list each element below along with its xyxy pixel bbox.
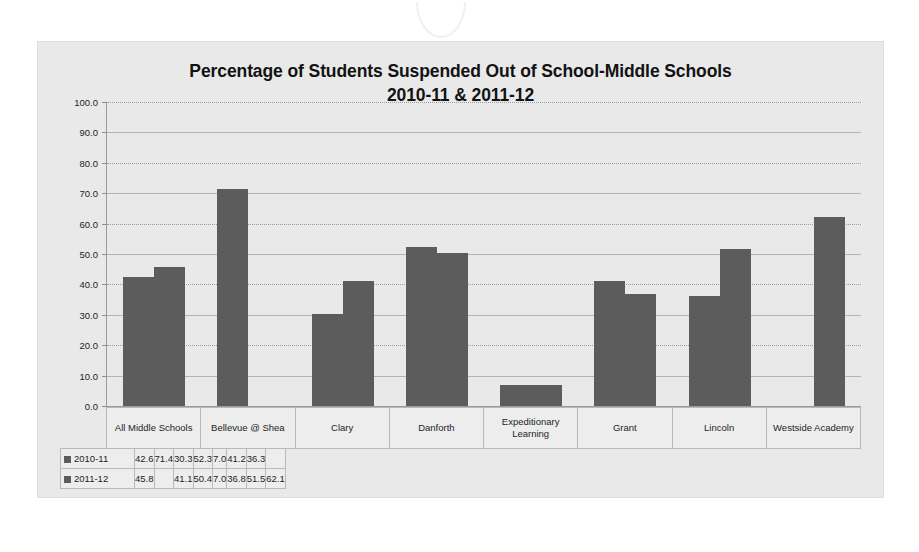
table-cell: 51.5 [246,469,266,489]
table-row: 2011-1245.841.150.47.036.851.562.1 [61,469,286,489]
bar[interactable] [154,267,185,406]
table-cell: 30.3 [174,449,194,469]
bar[interactable] [531,385,562,406]
bar-slot [783,102,814,406]
bar-group [201,102,295,406]
table-cell: 41.1 [174,469,194,489]
y-axis-tick-label: 70.0 [80,188,99,199]
bar-group [673,102,767,406]
bar-group [390,102,484,406]
table-cell: 52.3 [193,449,213,469]
bar-slot [312,102,343,406]
bar-group [767,102,861,406]
bar[interactable] [343,281,374,406]
bar-slot [154,102,185,406]
y-axis-tick-label: 20.0 [80,340,99,351]
legend-square-icon [64,456,71,463]
bar-group [578,102,672,406]
bar[interactable] [312,314,343,406]
bar[interactable] [720,249,751,406]
bar[interactable] [437,253,468,406]
chart-data-table: 2010-1142.671.430.352.37.041.236.32011-1… [60,448,286,489]
bar[interactable] [500,385,531,406]
table-cell: 7.0 [213,469,227,489]
table-cell: 41.2 [227,449,247,469]
category-label-4: Danforth [390,408,484,448]
bar-slot [406,102,437,406]
bar-slot [217,102,248,406]
scan-seal-artifact [416,2,466,38]
table-cell: 50.4 [193,469,213,489]
table-cell: 36.3 [246,449,266,469]
bar[interactable] [123,277,154,407]
y-axis-tick-label: 0.0 [85,401,98,412]
bar-slot [123,102,154,406]
bar-slot [689,102,720,406]
table-row: 2010-1142.671.430.352.37.041.236.3 [61,449,286,469]
table-cell: 42.6 [135,449,155,469]
plot-area: 100.090.080.070.060.050.040.030.020.010.… [106,102,861,407]
category-label-7: Lincoln [673,408,767,448]
bar-slot [248,102,279,406]
y-axis-tick-label: 80.0 [80,157,99,168]
bar-slot [500,102,531,406]
table-cell: 36.8 [227,469,247,489]
category-label-1: All Middle Schools [107,408,201,448]
chart-title-line1: Percentage of Students Suspended Out of … [189,61,731,81]
table-cell [154,469,174,489]
bars-layer [107,102,861,406]
table-cell: 7.0 [213,449,227,469]
bar-slot [625,102,656,406]
series-legend-2010-11: 2010-11 [61,449,135,469]
y-axis-tick-label: 40.0 [80,279,99,290]
bar[interactable] [406,247,437,406]
table-cell: 71.4 [154,449,174,469]
category-label-5: Expeditionary Learning [484,408,578,448]
bar-slot [720,102,751,406]
bar-group [484,102,578,406]
y-axis-tick-label: 50.0 [80,249,99,260]
table-cell [266,449,286,469]
category-label-3: Clary [296,408,390,448]
bar-slot [531,102,562,406]
table-cell: 45.8 [135,469,155,489]
bar[interactable] [217,189,248,406]
category-axis-labels: All Middle SchoolsBellevue @ SheaClaryDa… [106,407,861,449]
y-axis-tick-label: 100.0 [74,97,98,108]
y-axis-tick-label: 90.0 [80,127,99,138]
y-axis-tick-label: 10.0 [80,370,99,381]
bar-slot [594,102,625,406]
bar[interactable] [625,294,656,406]
series-name-label: 2011-12 [74,473,108,484]
bar-slot [814,102,845,406]
bar[interactable] [594,281,625,406]
bar-group [107,102,201,406]
bar[interactable] [814,217,845,406]
plot-wrapper: 100.090.080.070.060.050.040.030.020.010.… [106,102,861,407]
series-legend-2011-12: 2011-12 [61,469,135,489]
chart-title: Percentage of Students Suspended Out of … [38,59,883,107]
bar-slot [437,102,468,406]
y-axis-tick-label: 30.0 [80,309,99,320]
series-name-label: 2010-11 [74,453,108,464]
chart-panel: Percentage of Students Suspended Out of … [38,42,883,497]
y-axis-tick-label: 60.0 [80,218,99,229]
table-cell: 62.1 [266,469,286,489]
bar-group [296,102,390,406]
bar-slot [343,102,374,406]
legend-square-icon [64,476,71,483]
category-label-8: Westside Academy [767,408,861,448]
category-label-2: Bellevue @ Shea [201,408,295,448]
bar[interactable] [689,296,720,406]
category-label-6: Grant [578,408,672,448]
